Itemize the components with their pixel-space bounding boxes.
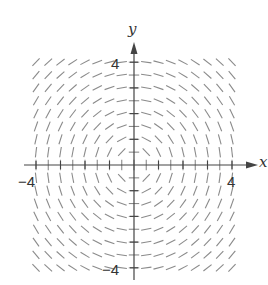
slope-segment: [194, 173, 196, 183]
slope-segment: [117, 202, 127, 205]
slope-segment: [204, 251, 212, 258]
slope-segment: [193, 122, 198, 131]
slope-segment: [81, 226, 89, 233]
slope-segment: [45, 84, 52, 92]
slope-segment: [94, 186, 100, 195]
slope-segment: [117, 228, 127, 230]
slope-segment: [35, 147, 36, 157]
slope-segment: [181, 186, 185, 195]
slope-segment: [59, 134, 62, 144]
slope-segment: [141, 87, 151, 89]
slope-segment: [179, 97, 187, 104]
slope-segment: [206, 186, 209, 196]
slope-segment: [230, 199, 234, 209]
slope-segment: [218, 122, 222, 132]
slope-segment: [231, 147, 232, 157]
slope-segment: [56, 59, 64, 65]
slope-segment: [69, 239, 77, 246]
slope-segment: [93, 253, 102, 257]
slope-segment: [57, 251, 65, 258]
slope-segment: [205, 212, 211, 221]
slope-segment: [166, 98, 175, 104]
slope-segment: [167, 110, 175, 116]
slope-segment: [216, 59, 224, 66]
slope-segment: [32, 58, 39, 66]
slope-segment: [93, 85, 102, 90]
slope-segment: [105, 74, 115, 77]
slope-segment: [35, 134, 37, 144]
slope-segment: [168, 135, 174, 144]
slope-segment: [105, 214, 114, 219]
slope-segment: [206, 134, 209, 144]
slope-segment: [82, 199, 88, 207]
slope-segment: [179, 110, 186, 118]
slope-segment: [96, 173, 99, 183]
slope-segment: [69, 84, 77, 91]
slope-segment: [34, 122, 38, 132]
slope-segment: [118, 174, 125, 182]
slope-segment: [179, 72, 188, 77]
slope-segment: [229, 225, 234, 234]
slope-segment: [182, 173, 184, 183]
slope-segment: [216, 84, 223, 92]
slope-segment: [69, 72, 77, 78]
slope-segment: [229, 96, 234, 105]
slope-segment: [80, 265, 89, 270]
slope-segment: [35, 173, 36, 183]
slope-segment: [118, 148, 125, 156]
slope-segment: [179, 213, 186, 221]
slope-segment: [58, 199, 62, 208]
slope-segment: [84, 173, 86, 183]
slope-segment: [179, 85, 188, 91]
slope-segment: [166, 73, 175, 77]
slope-segment: [92, 60, 102, 64]
slope-segment: [32, 264, 39, 272]
slope-segment: [59, 186, 62, 196]
slope-segment: [69, 225, 76, 233]
slope-segment: [117, 241, 127, 243]
slope-segment: [105, 201, 114, 207]
slope-segment: [48, 173, 49, 183]
slope-segment: [117, 87, 127, 89]
slope-segment: [68, 265, 77, 271]
slope-segment: [70, 122, 75, 131]
slope-segment: [33, 225, 38, 234]
slope-segment: [203, 59, 211, 65]
slope-segment: [58, 212, 64, 221]
slope-segment: [167, 213, 175, 219]
slope-segment: [93, 110, 101, 116]
slope-segment: [229, 71, 236, 79]
slope-segment: [117, 100, 127, 102]
slope-segment: [47, 134, 50, 144]
slope-segment: [83, 186, 87, 195]
slope-segment: [229, 251, 236, 259]
slope-segment: [166, 253, 175, 257]
slope-segment: [179, 226, 187, 233]
slope-segment: [191, 84, 199, 91]
slope-segment: [219, 173, 220, 183]
slope-segment: [180, 199, 186, 207]
slope-segment: [117, 254, 127, 256]
slope-segment: [141, 74, 151, 76]
slope-segment: [192, 109, 198, 117]
slope-segment: [45, 71, 52, 79]
slope-segment: [141, 228, 151, 230]
slope-segment: [106, 136, 113, 144]
slope-segment: [192, 225, 199, 233]
slope-segment: [182, 147, 184, 157]
slope-segment: [57, 97, 63, 105]
slope-segment: [46, 199, 50, 209]
slope-segment: [191, 72, 199, 78]
slope-segment: [117, 188, 126, 193]
slope-segment: [154, 99, 164, 103]
slope-segment: [71, 134, 75, 144]
x-max-tick-label: 4: [227, 174, 235, 189]
slope-segment: [72, 147, 74, 157]
slope-segment: [33, 251, 40, 259]
slope-segment: [45, 238, 52, 246]
slope-segment: [166, 240, 175, 245]
slope-segment: [143, 148, 150, 156]
slope-segment: [60, 147, 62, 157]
slope-segment: [33, 71, 40, 79]
slope-segment: [207, 147, 209, 157]
